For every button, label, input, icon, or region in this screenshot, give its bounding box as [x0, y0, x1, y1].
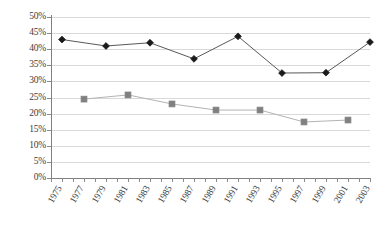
- x-axis-tick-label: 1977: [68, 184, 86, 205]
- x-axis-tick-label: 2001: [332, 184, 350, 205]
- x-axis-tick-mark: [95, 178, 96, 182]
- y-axis-tick-label: 40%: [6, 43, 46, 53]
- gridline: [51, 162, 370, 163]
- x-axis-tick-label: 1979: [90, 184, 108, 205]
- x-axis-tick-label: 1989: [200, 184, 218, 205]
- x-axis-tick-label: 1981: [112, 184, 130, 205]
- x-axis-tick-mark: [73, 178, 74, 182]
- x-axis-tick-mark: [117, 178, 118, 182]
- y-axis-tick-label: 45%: [6, 27, 46, 37]
- x-axis-tick-mark: [128, 178, 129, 182]
- x-axis-tick-mark: [205, 178, 206, 182]
- gridline: [51, 146, 370, 147]
- gridline: [51, 49, 370, 50]
- y-axis-tick-mark: [47, 17, 51, 18]
- plot-area: [51, 17, 370, 178]
- x-axis-tick-mark: [183, 178, 184, 182]
- x-axis-tick-mark: [194, 178, 195, 182]
- x-axis-tick-mark: [282, 178, 283, 182]
- y-axis-tick-mark: [47, 49, 51, 50]
- x-axis-tick-mark: [249, 178, 250, 182]
- x-axis-tick-label: 1985: [156, 184, 174, 205]
- y-axis-tick-label: 20%: [6, 108, 46, 118]
- x-axis-tick-label: 1997: [288, 184, 306, 205]
- y-axis-tick-label: 30%: [6, 75, 46, 85]
- x-axis-tick-mark: [238, 178, 239, 182]
- x-axis-tick-label: 1975: [46, 184, 64, 205]
- x-axis-tick-mark: [370, 178, 371, 182]
- x-axis-tick-mark: [348, 178, 349, 182]
- y-axis-tick-label: 50%: [6, 11, 46, 21]
- y-axis-tick-mark: [47, 33, 51, 34]
- y-axis-tick-mark: [47, 114, 51, 115]
- x-axis-tick-mark: [227, 178, 228, 182]
- y-axis-tick-mark: [47, 98, 51, 99]
- x-axis-tick-mark: [293, 178, 294, 182]
- y-axis-tick-mark: [47, 65, 51, 66]
- y-axis-tick-label: 15%: [6, 124, 46, 134]
- x-axis-tick-mark: [216, 178, 217, 182]
- x-axis-tick-mark: [315, 178, 316, 182]
- gridline: [51, 98, 370, 99]
- chart-container: 0%5%10%15%20%25%30%35%40%45%50% 19751977…: [0, 0, 391, 235]
- y-axis-tick-label: 35%: [6, 59, 46, 69]
- x-axis-tick-mark: [161, 178, 162, 182]
- y-axis-line: [51, 15, 52, 180]
- x-axis-tick-label: 1987: [178, 184, 196, 205]
- x-axis-tick-mark: [51, 178, 52, 182]
- y-axis-tick-mark: [47, 130, 51, 131]
- x-axis-tick-mark: [326, 178, 327, 182]
- gridline: [51, 65, 370, 66]
- x-axis-tick-mark: [84, 178, 85, 182]
- y-axis-tick-label: 25%: [6, 92, 46, 102]
- gridline: [51, 17, 370, 18]
- gridline: [51, 81, 370, 82]
- y-axis-tick-label: 0%: [6, 172, 46, 182]
- x-axis-tick-mark: [150, 178, 151, 182]
- gridline: [51, 114, 370, 115]
- x-axis-tick-mark: [337, 178, 338, 182]
- y-axis-tick-mark: [47, 146, 51, 147]
- x-axis-tick-label: 1999: [310, 184, 328, 205]
- x-axis-tick-mark: [271, 178, 272, 182]
- x-axis-tick-mark: [359, 178, 360, 182]
- y-axis-tick-label: 10%: [6, 140, 46, 150]
- x-axis-tick-label: 1993: [244, 184, 262, 205]
- x-axis-tick-label: 1983: [134, 184, 152, 205]
- x-axis-tick-label: 2003: [354, 184, 372, 205]
- y-axis-tick-mark: [47, 162, 51, 163]
- x-axis-tick-mark: [172, 178, 173, 182]
- x-axis-tick-mark: [260, 178, 261, 182]
- x-axis-tick-label: 1995: [266, 184, 284, 205]
- x-axis-tick-mark: [62, 178, 63, 182]
- x-axis-tick-mark: [106, 178, 107, 182]
- x-axis-tick-label: 1991: [222, 184, 240, 205]
- gridline: [51, 130, 370, 131]
- y-axis-tick-label: 5%: [6, 156, 46, 166]
- x-axis-tick-mark: [139, 178, 140, 182]
- x-axis-tick-mark: [304, 178, 305, 182]
- y-axis-tick-mark: [47, 81, 51, 82]
- x-axis-line: [51, 178, 371, 179]
- gridline: [51, 33, 370, 34]
